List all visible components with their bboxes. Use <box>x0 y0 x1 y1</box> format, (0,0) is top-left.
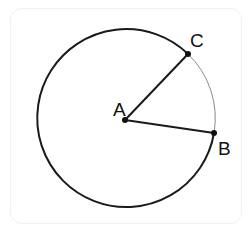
minor-arc <box>188 54 215 133</box>
radius-ac <box>125 54 188 120</box>
label-a: A <box>113 99 126 120</box>
label-b: B <box>218 138 231 159</box>
point-b <box>211 130 217 136</box>
radius-ab <box>125 120 214 133</box>
diagram-canvas: A B C <box>0 0 249 230</box>
label-c: C <box>190 30 204 51</box>
circle-diagram: A B C <box>0 0 249 230</box>
point-c <box>185 51 191 57</box>
